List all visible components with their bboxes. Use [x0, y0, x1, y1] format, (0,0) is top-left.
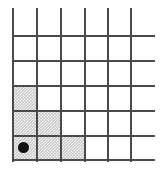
- shaded-cell-r4c1: [12, 85, 36, 110]
- grid-line-v-4: [84, 8, 86, 162]
- shaded-cell-r6c2: [36, 135, 60, 160]
- grid-line-v-2: [36, 8, 38, 162]
- grid-line-v-1: [12, 8, 14, 162]
- shaded-cell-r6c3: [60, 135, 84, 160]
- grid-line-v-5: [107, 8, 109, 162]
- grid-line-v-3: [60, 8, 62, 162]
- grid-figure: [0, 0, 164, 170]
- shaded-cell-r5c1: [12, 110, 36, 135]
- shaded-cell-r5c2: [36, 110, 60, 135]
- grid-line-v-6: [130, 8, 132, 162]
- marker-dot: [18, 142, 29, 153]
